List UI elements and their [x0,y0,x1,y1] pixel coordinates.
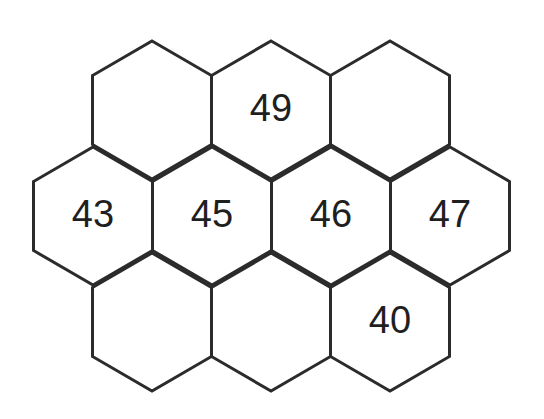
hexagon-cell-label: 43 [72,193,114,235]
hexagon-grid-canvas: 494345464740 [0,0,544,419]
hexagon-cell-label: 49 [250,87,292,129]
hexagon-cell-label: 45 [191,193,233,235]
hexagon-cell-label: 40 [369,299,411,341]
hexagon-cell-label: 47 [429,193,471,235]
hexagon-grid-svg: 494345464740 [0,0,544,419]
hexagon-cell-label: 46 [310,193,352,235]
